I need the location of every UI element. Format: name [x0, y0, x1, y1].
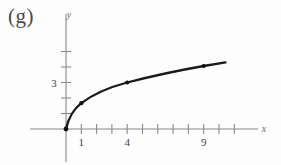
curve-data-points — [64, 64, 206, 131]
x-axis-name: x — [261, 123, 267, 134]
y-tick-label-3: 3 — [51, 77, 57, 89]
figure-panel: (g) x y — [0, 0, 281, 165]
axis-lines — [30, 14, 258, 162]
x-tick-label-9: 9 — [201, 136, 207, 148]
sqrt-curve — [66, 62, 226, 129]
x-tick-label-1: 1 — [79, 136, 85, 148]
data-point-4 — [125, 80, 129, 84]
data-point-1 — [79, 101, 83, 105]
plot-canvas: x y 1 4 9 3 — [0, 0, 281, 165]
x-tick-label-4: 4 — [124, 136, 130, 148]
data-point-0 — [64, 127, 69, 132]
y-axis-name: y — [66, 9, 72, 20]
data-point-9 — [202, 64, 206, 68]
